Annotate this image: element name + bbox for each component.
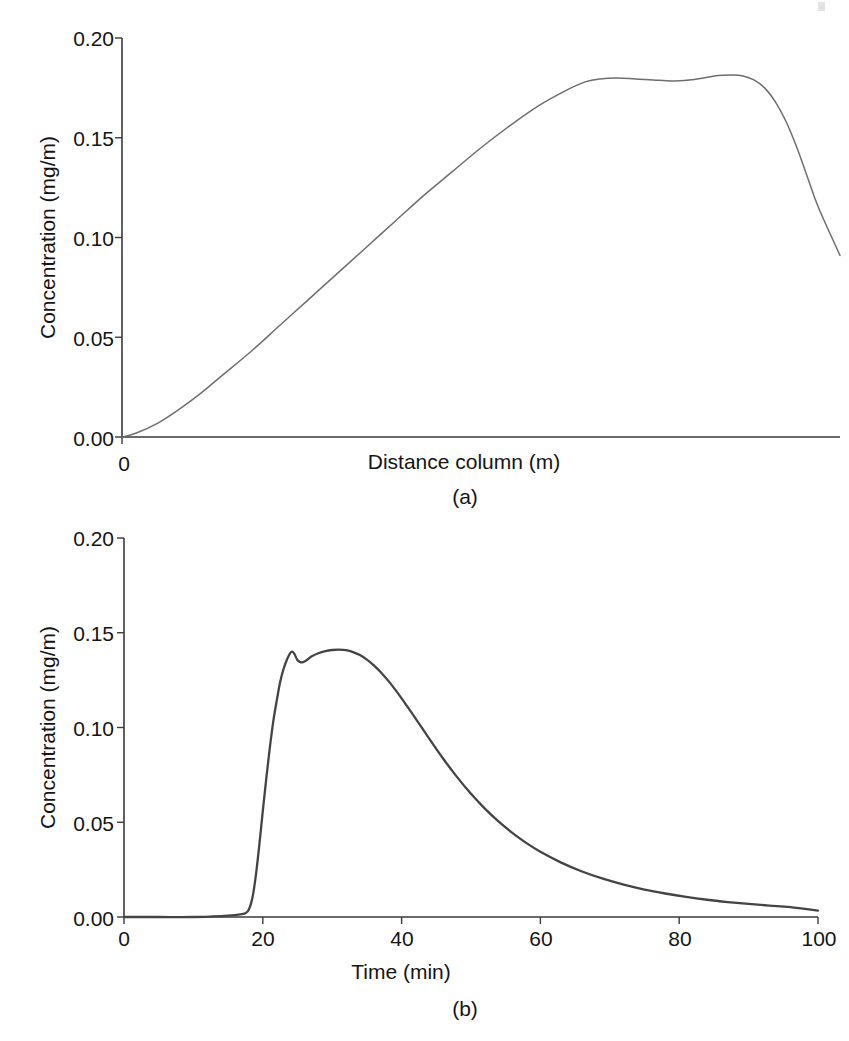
panel-a: Concentration (mg/m) 0.20 0.15 0.10 0.05… (0, 0, 849, 520)
panel-b-data-curve (124, 650, 818, 917)
panel-b-ytick-010: 0.10 (42, 718, 114, 739)
panel-b-x-axis-title: Time (min) (331, 960, 471, 984)
panel-b-ytick-000: 0.00 (42, 908, 114, 929)
panel-b-ytick-020: 0.20 (42, 528, 114, 549)
panel-b-xtick-0: 0 (94, 928, 154, 949)
two-panel-concentration-figure: Concentration (mg/m) 0.20 0.15 0.10 0.05… (0, 0, 849, 1041)
panel-a-ytick-005: 0.05 (42, 328, 114, 349)
panel-b-tick-marks (117, 538, 818, 924)
panel-a-ytick-020: 0.20 (42, 28, 114, 49)
panel-b-axes (124, 538, 818, 917)
panel-a-axes (122, 38, 840, 437)
panel-a-tick-marks (115, 38, 122, 444)
panel-b-xtick-20: 20 (233, 928, 293, 949)
panel-b: Concentration (mg/m) 0.20 0.15 0.10 0.05… (0, 510, 849, 1041)
panel-a-x-axis-title: Distance column (m) (344, 450, 584, 474)
panel-b-ytick-015: 0.15 (42, 623, 114, 644)
panel-b-caption: (b) (405, 997, 525, 1021)
panel-b-xtick-60: 60 (511, 928, 571, 949)
panel-a-data-curve (122, 75, 840, 437)
panel-b-xtick-40: 40 (372, 928, 432, 949)
panel-a-ytick-000: 0.00 (42, 428, 114, 449)
panel-b-xtick-100: 100 (789, 928, 849, 949)
panel-a-plot-area (0, 0, 849, 520)
panel-a-caption: (a) (405, 485, 525, 509)
panel-a-ytick-015: 0.15 (42, 128, 114, 149)
panel-b-xtick-80: 80 (650, 928, 710, 949)
panel-a-ytick-010: 0.10 (42, 228, 114, 249)
panel-b-ytick-005: 0.05 (42, 813, 114, 834)
panel-a-xtick-0: 0 (94, 453, 154, 474)
